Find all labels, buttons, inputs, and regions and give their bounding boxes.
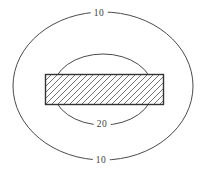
contour-label-inner-bottom: 20 <box>94 119 111 129</box>
contour-diagram: 10 20 10 <box>0 0 204 178</box>
hatched-rectangle <box>46 75 164 105</box>
contour-label-outer-top: 10 <box>91 8 108 18</box>
diagram-drawing <box>0 0 204 178</box>
contour-label-outer-bottom: 10 <box>93 155 110 165</box>
